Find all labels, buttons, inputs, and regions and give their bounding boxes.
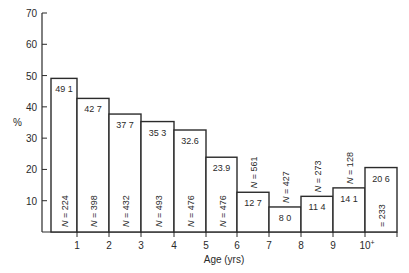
bar-value-label: 23.9 [213,163,231,173]
age-percentage-histogram: 10203040506070%12345678910+Age (yrs) 49 … [0,0,409,273]
y-tick-label: 20 [26,164,38,175]
x-tick-label: 4 [171,240,177,251]
sample-size-label: N = 224 [60,195,70,227]
sample-size-label: N = 476 [218,195,228,227]
bar-value-label: 42 7 [84,104,102,114]
bar-value-label: 14 1 [340,194,358,204]
x-tick-label: 9 [330,240,336,251]
x-tick-label: 3 [138,240,144,251]
bar-value-label: 49 1 [55,84,73,94]
bar-value-label: 35 3 [149,128,167,138]
bar-value-label: 32.6 [181,136,199,146]
x-axis-label: Age (yrs) [204,254,245,265]
x-tick-label: 1 [74,240,80,251]
y-tick-label: 30 [26,133,38,144]
sample-size-label: N = 128 [345,152,355,184]
sample-size-label: N = 476 [186,195,196,227]
y-tick-label: 60 [26,39,38,50]
bar-value-label: 8 0 [279,213,292,223]
sample-size-label: N = 493 [154,195,164,227]
y-tick-label: 10 [26,196,38,207]
x-tick-label: 7 [266,240,272,251]
sample-size-label: N = 427 [281,171,291,203]
x-tick-label: 8 [298,240,304,251]
x-tick-label: 6 [234,240,240,251]
bar-value-label: 20 6 [372,174,390,184]
x-tick-label: 5 [203,240,209,251]
y-tick-label: 50 [26,71,38,82]
sample-size-label: N = 561 [249,156,259,188]
y-tick-label: 40 [26,102,38,113]
bar-value-label: 37 7 [116,120,134,130]
sample-size-label: N = 398 [89,195,99,227]
y-tick-label: 70 [26,8,38,19]
sample-size-label: N = 273 [313,161,323,193]
sample-size-label: N = 432 [121,195,131,227]
y-axis-label: % [13,117,22,128]
chart-canvas: 10203040506070%12345678910+Age (yrs) 49 … [0,0,409,273]
x-tick-label: 10+ [359,239,374,251]
bar-value-label: 12 7 [244,198,262,208]
sample-size-label: = 233 [377,204,387,227]
x-tick-label: 2 [106,240,112,251]
bar-value-label: 11 4 [309,202,326,212]
